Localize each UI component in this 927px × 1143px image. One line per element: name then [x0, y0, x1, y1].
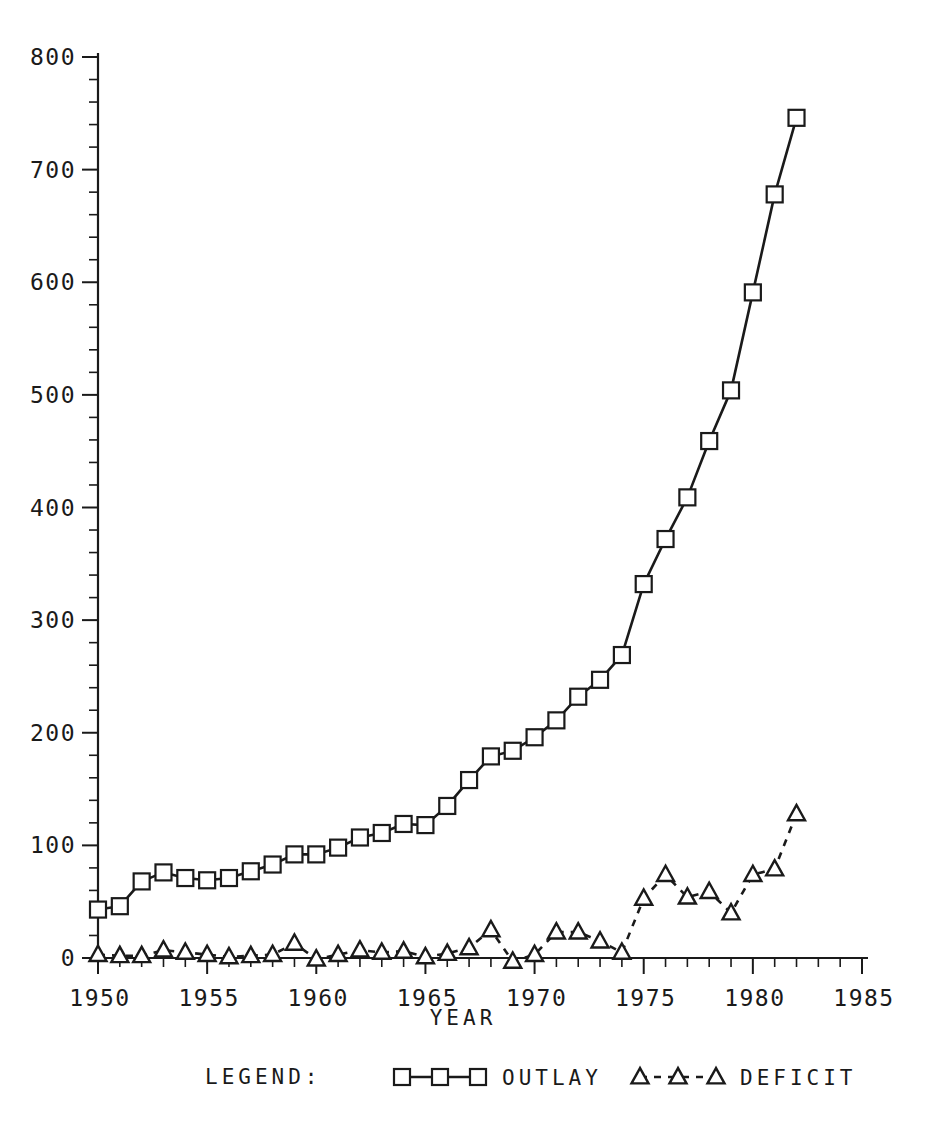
data-point [767, 186, 783, 202]
data-point [352, 829, 368, 845]
data-point [636, 576, 652, 592]
data-point [505, 743, 521, 759]
data-point [570, 689, 586, 705]
data-point [461, 772, 477, 788]
legend-label: OUTLAY [502, 1066, 602, 1090]
data-point [614, 647, 630, 663]
y-tick-label: 100 [30, 832, 76, 858]
legend-marker-square [470, 1069, 486, 1085]
y-tick-label: 0 [61, 945, 76, 971]
data-point [177, 870, 193, 886]
data-point [112, 898, 128, 914]
x-tick-label: 1960 [288, 985, 349, 1011]
x-tick-label: 1950 [69, 985, 130, 1011]
legend-marker-square [394, 1069, 410, 1085]
data-point [308, 846, 324, 862]
data-point [483, 748, 499, 764]
data-point [701, 433, 717, 449]
data-point [548, 712, 564, 728]
y-tick-label: 200 [30, 720, 76, 746]
data-point [134, 873, 150, 889]
data-point [396, 816, 412, 832]
x-tick-label: 1980 [724, 985, 785, 1011]
line-chart: 0100200300400500600700800 19501955196019… [0, 0, 927, 1143]
legend-title: LEGEND: [205, 1065, 322, 1089]
data-point [286, 846, 302, 862]
data-point [374, 825, 390, 841]
data-point [265, 857, 281, 873]
y-tick-label: 400 [30, 495, 76, 521]
x-tick-label: 1975 [615, 985, 676, 1011]
data-point [679, 489, 695, 505]
x-tick-label: 1955 [178, 985, 239, 1011]
y-tick-label: 600 [30, 269, 76, 295]
y-tick-label: 500 [30, 382, 76, 408]
data-point [745, 284, 761, 300]
data-point [90, 902, 106, 918]
data-point [658, 531, 674, 547]
data-point [155, 864, 171, 880]
data-point [439, 798, 455, 814]
x-tick-label: 1970 [506, 985, 567, 1011]
plot-background [0, 0, 927, 1143]
data-point [243, 863, 259, 879]
x-tick-label: 1985 [833, 985, 894, 1011]
data-point [789, 110, 805, 126]
data-point [592, 672, 608, 688]
data-point [221, 870, 237, 886]
data-point [527, 729, 543, 745]
data-point [330, 840, 346, 856]
data-point [417, 817, 433, 833]
legend-label: DEFICIT [740, 1066, 857, 1090]
y-tick-label: 800 [30, 44, 76, 70]
data-point [199, 872, 215, 888]
chart-legend: LEGEND:OUTLAYDEFICIT [205, 1065, 857, 1090]
x-axis-title: YEAR [430, 1006, 497, 1030]
data-point [723, 382, 739, 398]
chart-container: 0100200300400500600700800 19501955196019… [0, 0, 927, 1143]
y-tick-label: 300 [30, 607, 76, 633]
legend-marker-square [432, 1069, 448, 1085]
y-tick-label: 700 [30, 157, 76, 183]
